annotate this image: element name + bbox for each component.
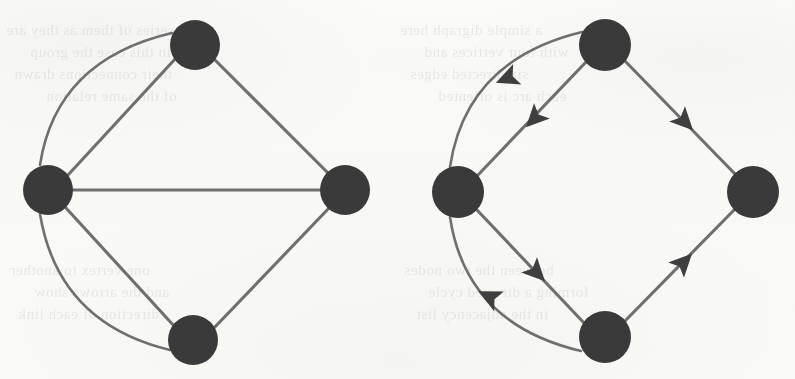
graph-node-right [320, 165, 370, 215]
graph-node-left [432, 166, 484, 218]
graph-edge-top-right [215, 60, 329, 174]
graph-edge-bottom-right [213, 207, 330, 329]
left-graph-edges [40, 33, 330, 350]
graph-node-top [170, 20, 220, 70]
graph-node-right [727, 166, 779, 218]
graph-edge-top-left-arc [450, 32, 582, 167]
right-graph-arrowheads [473, 64, 700, 311]
graph-node-bottom [579, 311, 631, 363]
graph-edge-bottom-left-arc [450, 217, 581, 351]
graph-node-top [579, 19, 631, 71]
graph-node-left [23, 165, 73, 215]
graph-edge-left-bottom-arc [40, 214, 170, 350]
arrowhead-bottom-left-arc [473, 281, 503, 311]
arrowhead-top-left-arc [492, 64, 522, 93]
graph-node-bottom [168, 315, 218, 365]
right-graph-nodes [432, 19, 779, 363]
figure-canvas: a series of them as they arein this case… [0, 0, 795, 379]
graph-edge-left-top-arc [40, 33, 172, 165]
graph-diagram-pair [0, 0, 795, 379]
left-graph-nodes [23, 20, 370, 365]
graph-edge-left-bottom-straight [66, 208, 175, 327]
